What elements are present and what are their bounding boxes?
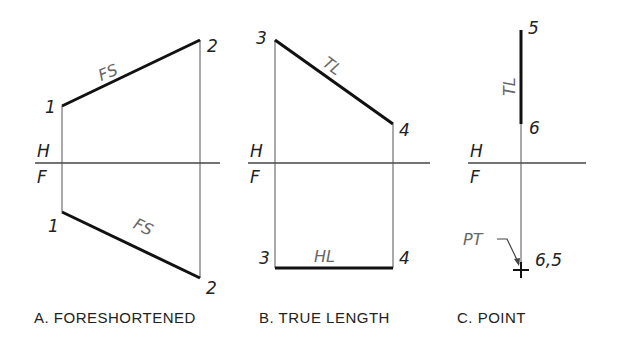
caption-foreshortened: A. FORESHORTENED <box>34 309 196 326</box>
point-label: 5 <box>528 18 539 38</box>
view-true-length: H F 3 4 TL 3 4 HL <box>248 28 430 268</box>
callout-label-pt: PT <box>463 230 484 249</box>
fold-label-f: F <box>250 167 260 187</box>
point-label: 4 <box>399 120 410 140</box>
arrowhead-icon <box>514 258 520 266</box>
fold-label-h: H <box>250 141 263 161</box>
fold-label-h: H <box>37 141 50 161</box>
fold-label-f: F <box>470 167 480 187</box>
line-1-2-top <box>62 40 200 106</box>
fold-label-f: F <box>37 167 47 187</box>
point-label: 1 <box>45 97 56 117</box>
caption-point: C. POINT <box>457 309 526 326</box>
point-label: 4 <box>399 248 410 268</box>
line-label-fs: FS <box>131 214 157 239</box>
caption-true-length: B. TRUE LENGTH <box>259 309 390 326</box>
line-1-2-front <box>62 212 200 278</box>
line-3-4-top <box>275 40 393 124</box>
point-label: 2 <box>206 278 217 298</box>
point-label: 3 <box>256 28 267 48</box>
line-label-hl: HL <box>314 247 335 266</box>
line-label-tl: TL <box>500 77 519 96</box>
point-label: 1 <box>48 216 59 236</box>
point-label: 6 <box>529 118 540 138</box>
line-views-diagram: H F 1 2 FS 1 2 FS H F 3 4 TL 3 4 HL H F … <box>0 0 619 341</box>
view-point: H F 5 6 TL PT 6,5 <box>463 18 586 278</box>
point-label: 6,5 <box>535 250 562 270</box>
point-label: 2 <box>207 36 218 56</box>
view-foreshortened: H F 1 2 FS 1 2 FS <box>35 36 220 298</box>
fold-label-h: H <box>470 141 483 161</box>
point-label: 3 <box>259 248 270 268</box>
